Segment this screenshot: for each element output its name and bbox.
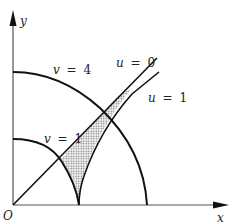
diagram-canvas: y x O v = 4 v = 1 u = 0 u = 1 xyxy=(0,0,232,223)
x-axis-arrow-icon xyxy=(213,202,229,209)
y-axis-label: y xyxy=(19,14,27,28)
label-u0: u = 0 xyxy=(116,56,155,70)
label-v1: v = 1 xyxy=(44,132,82,146)
curve-u0 xyxy=(13,58,157,205)
y-axis-arrow-icon xyxy=(10,10,17,26)
x-axis-label-text: x xyxy=(217,211,224,223)
origin-label: O xyxy=(3,209,13,223)
label-v4: v = 4 xyxy=(53,63,92,77)
label-u1: u = 1 xyxy=(148,91,187,105)
